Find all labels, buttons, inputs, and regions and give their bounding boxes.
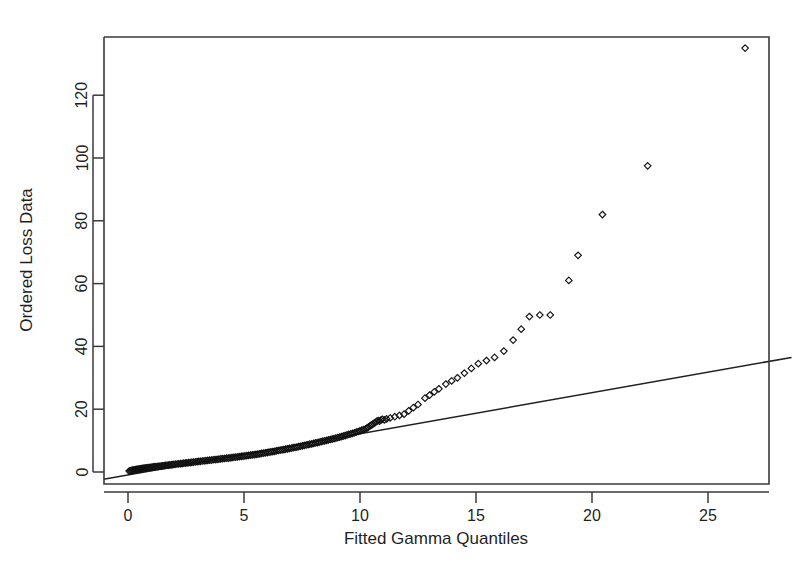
x-tick-label: 15 — [467, 507, 485, 524]
x-tick-label: 10 — [351, 507, 369, 524]
y-tick-label: 40 — [74, 337, 91, 355]
y-tick-label: 120 — [74, 82, 91, 109]
x-axis-title: Fitted Gamma Quantiles — [344, 529, 528, 548]
y-tick-label: 0 — [74, 467, 91, 476]
y-tick-label: 60 — [74, 275, 91, 293]
x-tick-label: 25 — [699, 507, 717, 524]
plot-canvas: 0510152025 020406080100120 Fitted Gamma … — [0, 0, 812, 569]
x-tick-label: 5 — [240, 507, 249, 524]
x-tick-label: 20 — [583, 507, 601, 524]
x-tick-label: 0 — [124, 507, 133, 524]
qq-plot-figure: 0510152025 020406080100120 Fitted Gamma … — [0, 0, 812, 569]
y-tick-label: 20 — [74, 400, 91, 418]
y-tick-label: 80 — [74, 212, 91, 230]
y-axis-title: Ordered Loss Data — [17, 188, 36, 332]
y-tick-label: 100 — [74, 145, 91, 172]
